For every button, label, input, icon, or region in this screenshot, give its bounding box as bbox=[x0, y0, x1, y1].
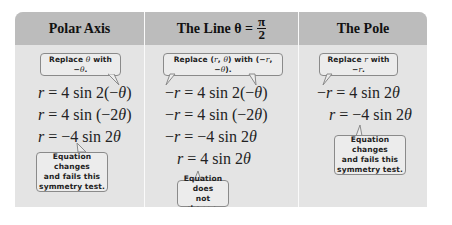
callout-line-2: and fails this bbox=[335, 155, 405, 165]
callout-text-block: Equation changes and fails this symmetry… bbox=[335, 135, 405, 175]
callout-line-2: and fails this bbox=[37, 172, 107, 182]
callout-line-1: Equation changes bbox=[335, 135, 405, 155]
callout-line-3: symmetry test. bbox=[37, 182, 107, 192]
callout-line-1: Equation does bbox=[178, 174, 228, 194]
column-pole: The Pole Replace r with −r. −r = 4 sin 2… bbox=[299, 12, 427, 207]
callout-fails-test: Equation changes and fails this symmetry… bbox=[36, 152, 108, 192]
callout-text-block: Equation changes and fails this symmetry… bbox=[37, 152, 107, 192]
column-polar-axis: Polar Axis Replace θ with −θ. r = 4 sin … bbox=[15, 12, 144, 207]
callout-line-2: not change. bbox=[178, 194, 228, 208]
column-line-pi-over-2: The Line θ = π 2 Replace (r, θ) with (−r… bbox=[145, 12, 298, 207]
callout-text-block: Equation does not change. bbox=[178, 174, 228, 208]
callout-pointer-icon bbox=[299, 12, 427, 207]
symmetry-tests-table: Polar Axis Replace θ with −θ. r = 4 sin … bbox=[15, 12, 427, 207]
callout-line-1: Equation changes bbox=[37, 152, 107, 172]
callout-fails-test: Equation changes and fails this symmetry… bbox=[334, 135, 406, 175]
callout-no-change: Equation does not change. bbox=[177, 180, 229, 207]
callout-line-3: symmetry test. bbox=[335, 165, 405, 175]
